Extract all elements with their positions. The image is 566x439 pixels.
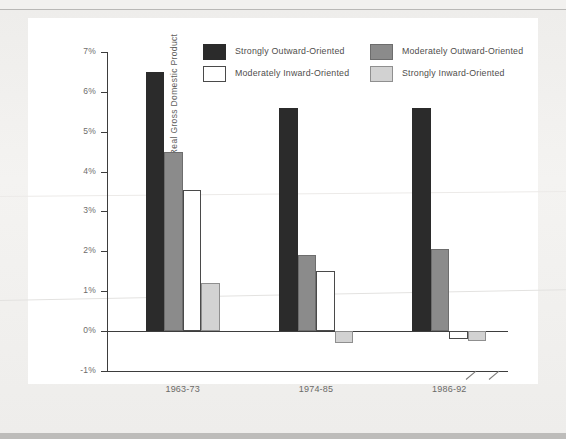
bar (431, 249, 450, 331)
bar-chart: Average Annual Percentage Growth of Real… (0, 0, 566, 439)
legend-label: Moderately Inward-Oriented (235, 68, 349, 78)
bar (316, 271, 335, 331)
bar (201, 283, 220, 331)
bar (298, 255, 317, 331)
y-tick-mark (101, 251, 108, 252)
y-tick-label: 7% (66, 46, 96, 56)
zero-baseline (107, 331, 508, 332)
y-tick-mark (101, 132, 108, 133)
scan-bottom-bar (0, 433, 566, 439)
x-axis-category-label: 1986-92 (382, 384, 516, 394)
y-axis-tick-labels: 7%6%5%4%3%2%1%0%-1% (62, 0, 96, 439)
y-tick-label: 1% (66, 285, 96, 295)
legend-label: Strongly Outward-Oriented (235, 46, 345, 56)
y-tick-label: 3% (66, 205, 96, 215)
y-tick-mark (101, 52, 108, 53)
legend-label: Strongly Inward-Oriented (402, 68, 505, 78)
y-tick-label: 4% (66, 166, 96, 176)
bar (449, 331, 468, 339)
bar (335, 331, 354, 343)
x-axis-line (107, 371, 508, 372)
y-tick-mark (101, 172, 108, 173)
y-tick-mark (101, 371, 108, 372)
y-tick-mark (101, 92, 108, 93)
y-tick-mark (101, 291, 108, 292)
bar (164, 152, 183, 331)
leader-line-left (466, 371, 477, 380)
legend-swatch-icon (203, 66, 226, 82)
legend-swatch-icon (370, 66, 393, 82)
bar (468, 331, 487, 341)
y-tick-label: 2% (66, 245, 96, 255)
bar (412, 108, 431, 331)
legend-swatch-icon (203, 44, 226, 60)
y-tick-label: 0% (66, 325, 96, 335)
y-tick-label: 5% (66, 126, 96, 136)
y-tick-mark (101, 211, 108, 212)
legend-swatch-icon (370, 44, 393, 60)
leader-line-right (489, 371, 500, 380)
bar (146, 72, 165, 331)
legend-label: Moderately Outward-Oriented (402, 46, 523, 56)
x-axis-category-label: 1974-85 (249, 384, 383, 394)
chart-legend: Strongly Outward-OrientedModerately Outw… (203, 44, 523, 84)
y-tick-label: 6% (66, 86, 96, 96)
y-tick-label: -1% (66, 365, 96, 375)
y-tick-mark (101, 331, 108, 332)
bar (183, 190, 202, 331)
x-axis-category-label: 1963-73 (116, 384, 250, 394)
bar (279, 108, 298, 331)
